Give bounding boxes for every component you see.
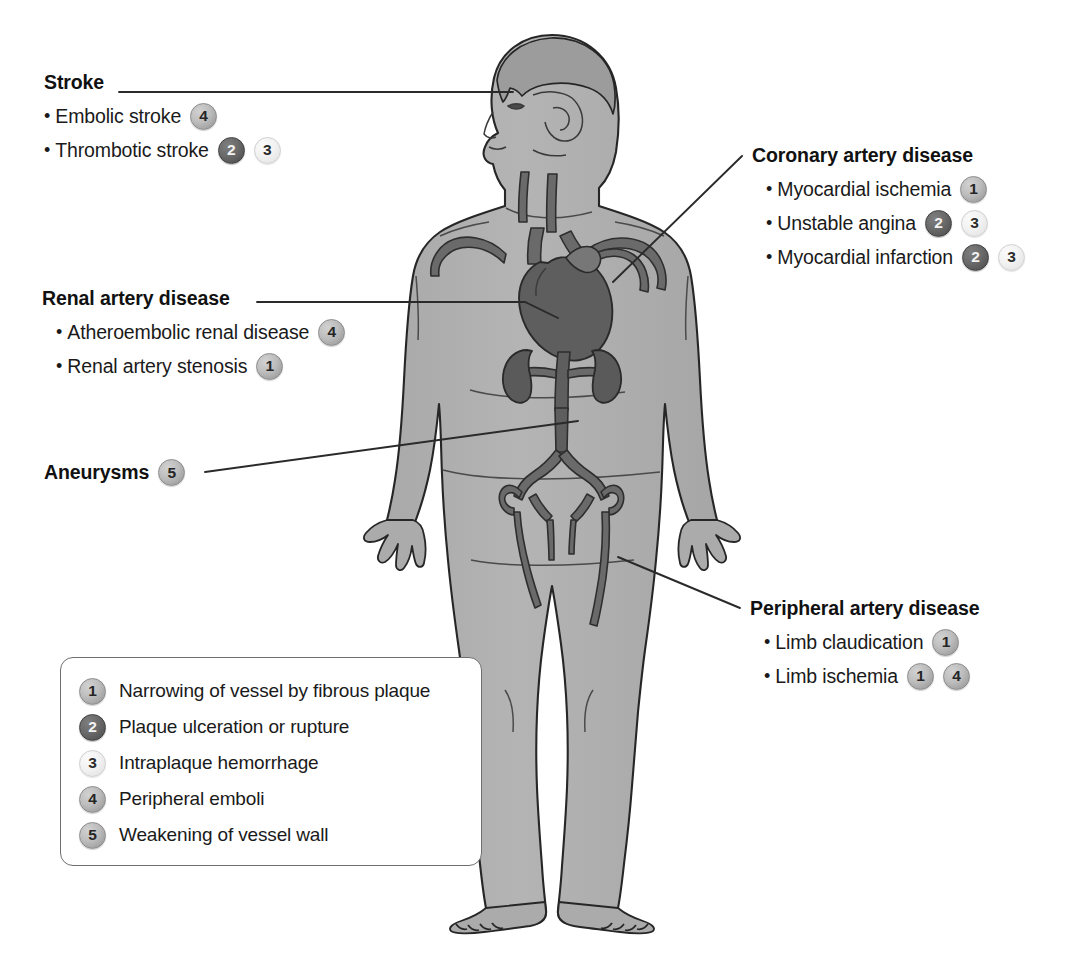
callout-items-peripheral: • Limb claudication 1 • Limb ischemia 1 … (750, 625, 979, 693)
legend-item: 2 Plaque ulceration or rupture (79, 709, 430, 745)
callout-title-renal: Renal artery disease (42, 288, 345, 309)
badge-4: 4 (318, 319, 345, 346)
legend-item: 4 Peripheral emboli (79, 781, 430, 817)
badge-1: 1 (907, 663, 934, 690)
bullet-glyph: • (56, 323, 62, 341)
leader-line-coronary (613, 156, 742, 282)
legend-item-text: Narrowing of vessel by fibrous plaque (119, 680, 430, 702)
list-item-label: Atheroembolic renal disease (67, 321, 309, 344)
list-item-label: Myocardial infarction (777, 246, 953, 269)
vascular-system (431, 172, 666, 626)
badge-4: 4 (79, 786, 106, 813)
list-item-label: Embolic stroke (55, 105, 181, 128)
badge-1: 1 (79, 678, 106, 705)
list-item: • Myocardial infarction 2 3 (766, 240, 1025, 274)
badge-group: 2 3 (925, 210, 988, 237)
callout-items-renal: • Atheroembolic renal disease 4 • Renal … (42, 315, 345, 383)
badge-group: 4 (190, 103, 217, 130)
callout-coronary-artery-disease: Coronary artery disease • Myocardial isc… (752, 145, 1025, 274)
bullet-glyph: • (44, 107, 50, 125)
badge-2: 2 (962, 244, 989, 271)
bullet-glyph: • (764, 667, 770, 685)
callout-aneurysms: Aneurysms 5 (44, 459, 185, 486)
badge-3: 3 (254, 137, 281, 164)
list-item-label: Limb claudication (775, 631, 923, 654)
badge-group: 1 4 (907, 663, 970, 690)
list-item: • Atheroembolic renal disease 4 (56, 315, 345, 349)
bullet-glyph: • (766, 248, 772, 266)
bullet-glyph: • (56, 357, 62, 375)
list-item: • Thrombotic stroke 2 3 (44, 133, 281, 167)
badge-3: 3 (998, 244, 1025, 271)
callout-title-peripheral: Peripheral artery disease (750, 598, 979, 619)
list-item-label: Thrombotic stroke (55, 139, 209, 162)
list-item: • Unstable angina 2 3 (766, 206, 1025, 240)
badge-1: 1 (932, 629, 959, 656)
badge-group: 1 (932, 629, 959, 656)
callout-peripheral-artery-disease: Peripheral artery disease • Limb claudic… (750, 598, 979, 693)
list-item: • Embolic stroke 4 (44, 99, 281, 133)
badge-2: 2 (79, 714, 106, 741)
callout-items-coronary: • Myocardial ischemia 1 • Unstable angin… (752, 172, 1025, 274)
badge-group: 1 (960, 176, 987, 203)
callout-title-coronary: Coronary artery disease (752, 145, 1025, 166)
badge-2: 2 (925, 210, 952, 237)
badge-3: 3 (961, 210, 988, 237)
list-item: • Limb ischemia 1 4 (764, 659, 979, 693)
leader-line-aneurysms (205, 421, 578, 472)
legend-list: 1 Narrowing of vessel by fibrous plaque … (79, 673, 430, 853)
list-item: • Renal artery stenosis 1 (56, 349, 345, 383)
callout-stroke: Stroke • Embolic stroke 4 • Thrombotic s… (44, 72, 281, 167)
hair (497, 38, 615, 114)
callout-renal-artery-disease: Renal artery disease • Atheroembolic ren… (42, 288, 345, 383)
badge-1: 1 (256, 353, 283, 380)
badge-2: 2 (218, 137, 245, 164)
body-contours (416, 208, 688, 732)
bullet-glyph: • (764, 633, 770, 651)
list-item-label: Limb ischemia (775, 665, 898, 688)
legend-item-text: Peripheral emboli (119, 788, 264, 810)
legend-box: 1 Narrowing of vessel by fibrous plaque … (60, 657, 482, 866)
hands (364, 520, 740, 570)
bullet-glyph: • (766, 180, 772, 198)
badge-group: 5 (158, 459, 185, 486)
badge-1: 1 (960, 176, 987, 203)
legend-item: 5 Weakening of vessel wall (79, 817, 430, 853)
callout-items-stroke: • Embolic stroke 4 • Thrombotic stroke 2… (44, 99, 281, 167)
badge-group: 2 3 (962, 244, 1025, 271)
callout-title-stroke: Stroke (44, 72, 281, 93)
badge-4: 4 (943, 663, 970, 690)
callout-aneurysms-row: Aneurysms 5 (44, 459, 185, 486)
badge-group: 1 (256, 353, 283, 380)
bullet-glyph: • (766, 214, 772, 232)
feet (450, 902, 654, 933)
list-item-label: Renal artery stenosis (67, 355, 247, 378)
badge-4: 4 (190, 103, 217, 130)
badge-group: 4 (318, 319, 345, 346)
legend-item-text: Weakening of vessel wall (119, 824, 328, 846)
list-item: • Myocardial ischemia 1 (766, 172, 1025, 206)
badge-group: 2 3 (218, 137, 281, 164)
bullet-glyph: • (44, 141, 50, 159)
leader-line-peripheral (618, 557, 740, 608)
list-item-label: Myocardial ischemia (777, 178, 951, 201)
legend-item-text: Intraplaque hemorrhage (119, 752, 319, 774)
badge-5: 5 (158, 459, 185, 486)
list-item-label: Unstable angina (777, 212, 916, 235)
list-item: • Limb claudication 1 (764, 625, 979, 659)
face-features (484, 92, 583, 156)
callout-title-aneurysms: Aneurysms (44, 462, 149, 483)
diagram-canvas: Stroke • Embolic stroke 4 • Thrombotic s… (0, 0, 1080, 957)
legend-item: 1 Narrowing of vessel by fibrous plaque (79, 673, 430, 709)
legend-item: 3 Intraplaque hemorrhage (79, 745, 430, 781)
badge-3: 3 (79, 750, 106, 777)
legend-item-text: Plaque ulceration or rupture (119, 716, 349, 738)
badge-5: 5 (79, 822, 106, 849)
